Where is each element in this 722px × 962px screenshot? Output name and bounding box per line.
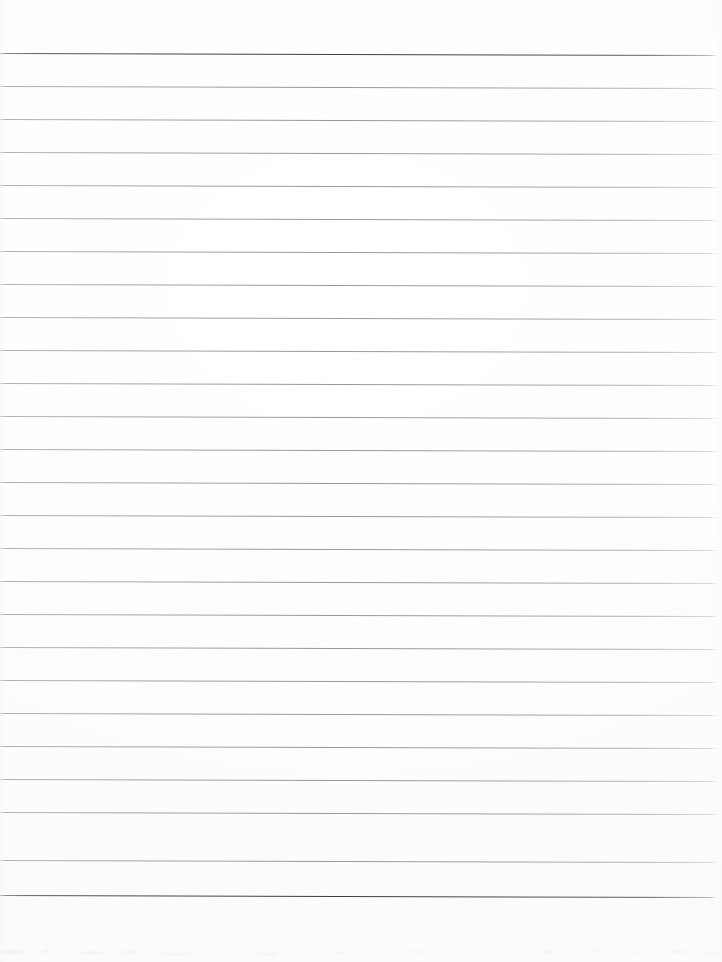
writing-area	[0, 0, 722, 962]
scanned-page	[0, 0, 722, 962]
